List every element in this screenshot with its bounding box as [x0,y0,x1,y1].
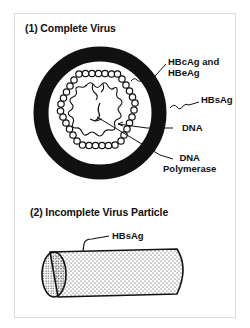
label-hbsag-complete: HBsAg [201,94,233,105]
incomplete-particle-cylinder [42,236,183,297]
label-hbsag-incomplete: HBsAg [112,230,144,241]
section-title-incomplete-virus: (2) Incomplete Virus Particle [30,206,168,218]
label-dna-polymerase: DNA Polymerase [163,152,216,174]
label-dna: DNA [182,122,203,133]
label-polymerase-line1: DNA [163,152,216,163]
label-polymerase-line2: Polymerase [163,163,216,174]
label-hbcag-line2: HBeAg [168,67,219,78]
section-title-complete-virus: (1) Complete Virus [25,22,116,34]
dna-strand [68,83,122,136]
label-hbcag-hbeag: HBcAg and HBeAg [168,56,219,78]
label-hbcag-line1: HBcAg and [168,56,219,67]
